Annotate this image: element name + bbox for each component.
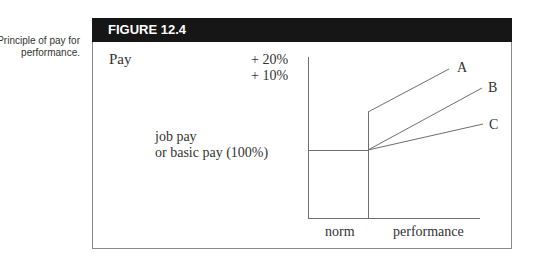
line-c	[368, 124, 483, 150]
line-a	[368, 69, 449, 112]
pay-diagram	[0, 0, 535, 260]
line-b	[368, 88, 482, 150]
